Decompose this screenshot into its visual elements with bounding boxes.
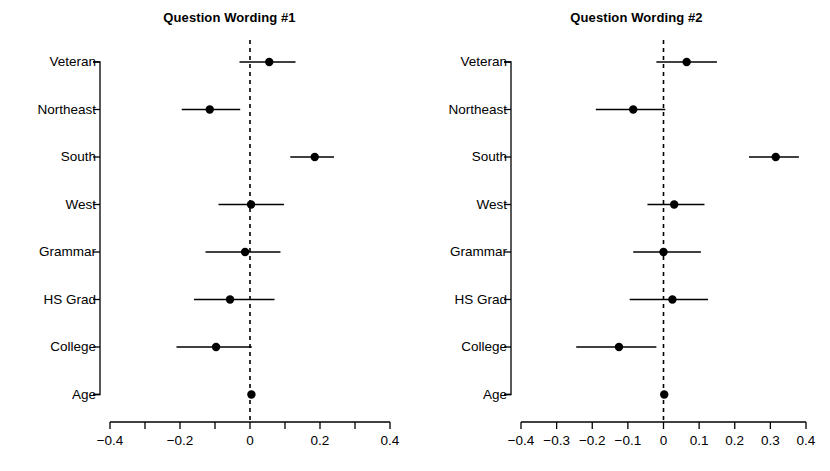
x-axis-tick-label: 0.2 [725,434,744,448]
point-estimate-marker [772,153,780,161]
point-estimate-marker [659,248,667,256]
y-axis-category-label: Age [72,388,96,402]
point-estimate-marker [247,200,255,208]
y-axis-category-label: College [50,340,96,354]
x-axis-tick-label: −0.2 [167,434,194,448]
y-axis-category-label: Veteran [49,55,96,69]
plot-canvas [0,0,415,471]
panel-question-wording-2: Question Wording #2 VeteranNortheastSout… [415,0,830,471]
y-axis-category-label: Northeast [37,103,96,117]
x-axis-tick-label: −0.3 [543,434,570,448]
point-estimate-marker [311,153,319,161]
x-axis-tick-label: −0.2 [579,434,606,448]
x-axis-tick-label: 0.3 [761,434,780,448]
x-axis-tick-label: −0.4 [97,434,124,448]
point-estimate-marker [615,343,623,351]
point-estimate-marker [247,390,255,398]
y-axis-category-label: College [461,340,507,354]
x-axis-tick-label: 0 [660,434,668,448]
x-axis-tick-label: −0.1 [615,434,642,448]
plot-canvas [415,0,830,471]
x-axis-tick-label: 0.4 [797,434,816,448]
point-estimate-marker [212,343,220,351]
point-estimate-marker [265,58,273,66]
x-axis-tick-label: −0.4 [508,434,535,448]
plot-area: VeteranNortheastSouthWestGrammarHS GradC… [415,0,830,471]
y-axis-category-label: West [476,198,507,212]
x-axis-tick-label: 0 [246,434,254,448]
point-estimate-marker [226,295,234,303]
y-axis-category-label: West [65,198,96,212]
point-estimate-marker [670,200,678,208]
plot-area: VeteranNortheastSouthWestGrammarHS GradC… [0,0,415,471]
point-estimate-marker [629,105,637,113]
y-axis-category-label: Age [483,388,507,402]
y-axis-category-label: Grammar [450,245,507,259]
point-estimate-marker [668,295,676,303]
point-estimate-marker [660,390,668,398]
y-axis-category-label: Veteran [460,55,507,69]
x-axis-tick-label: 0.4 [381,434,400,448]
y-axis-category-label: Northeast [448,103,507,117]
x-axis-tick-label: 0.1 [690,434,709,448]
point-estimate-marker [206,105,214,113]
x-axis-tick-label: 0.2 [311,434,330,448]
y-axis-category-label: HS Grad [454,293,507,307]
y-axis-category-label: HS Grad [43,293,96,307]
y-axis-category-label: South [61,150,96,164]
y-axis-category-label: South [472,150,507,164]
y-axis-category-label: Grammar [39,245,96,259]
panel-question-wording-1: Question Wording #1 VeteranNortheastSout… [0,0,415,471]
point-estimate-marker [682,58,690,66]
figure-two-panel-coefficient-plot: Question Wording #1 VeteranNortheastSout… [0,0,830,471]
point-estimate-marker [241,248,249,256]
caption-partial-text [0,459,830,471]
